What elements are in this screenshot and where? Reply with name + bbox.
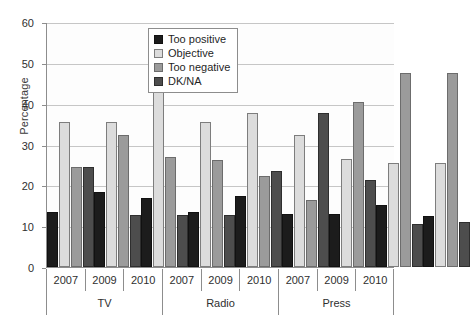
x-axis-year-label: 2010	[123, 269, 162, 291]
bar	[353, 102, 364, 267]
x-axis-year-label: 2010	[239, 269, 278, 291]
x-axis-year-label: 2009	[317, 269, 356, 291]
legend-item: DK/NA	[154, 74, 230, 88]
legend-swatch-icon	[154, 35, 163, 44]
bar	[423, 216, 434, 267]
bar-group	[235, 23, 282, 267]
y-axis-tick-label: 10	[0, 221, 34, 233]
y-axis-tick-mark	[42, 23, 46, 24]
legend-item: Too negative	[154, 60, 230, 74]
x-axis-year-label: 2009	[85, 269, 124, 291]
y-axis-tick-label: 30	[0, 140, 34, 152]
bar	[177, 215, 188, 267]
legend-label: Objective	[168, 47, 214, 59]
bar	[188, 212, 199, 267]
bar	[259, 176, 270, 267]
bar	[83, 167, 94, 267]
x-axis-year-label: 2010	[355, 269, 394, 291]
x-axis-year-label: 2007	[162, 269, 201, 291]
bar	[71, 167, 82, 267]
y-axis-tick-label: 60	[0, 17, 34, 29]
x-axis-media-label: Radio	[162, 291, 278, 315]
x-axis-media-label: TV	[46, 291, 162, 315]
bar	[106, 122, 117, 267]
y-axis-tick-label: 0	[0, 262, 34, 274]
x-axis-year-label: 2007	[46, 269, 85, 291]
legend: Too positiveObjectiveToo negativeDK/NA	[148, 28, 238, 93]
legend-swatch-icon	[154, 63, 163, 72]
y-axis-tick-label: 50	[0, 58, 34, 70]
bar	[153, 89, 164, 267]
x-axis-year-label: 2007	[278, 269, 317, 291]
bar	[247, 113, 258, 267]
bar	[165, 157, 176, 267]
bar	[306, 200, 317, 267]
legend-label: Too negative	[168, 61, 230, 73]
legend-label: DK/NA	[168, 75, 202, 87]
bar	[130, 215, 141, 267]
legend-item: Objective	[154, 46, 230, 60]
legend-swatch-icon	[154, 77, 163, 86]
bar-group	[47, 23, 94, 267]
legend-swatch-icon	[154, 49, 163, 58]
bar	[200, 122, 211, 267]
bar	[59, 122, 70, 267]
legend-item: Too positive	[154, 32, 230, 46]
bar-group	[282, 23, 329, 267]
bar	[318, 113, 329, 267]
bar	[447, 73, 458, 267]
bar	[388, 163, 399, 267]
bar	[376, 205, 387, 267]
y-axis-tick-mark	[42, 227, 46, 228]
y-axis-tick-label: 40	[0, 99, 34, 111]
bar	[47, 212, 58, 267]
bar	[341, 159, 352, 267]
bar	[271, 171, 282, 267]
bar	[294, 135, 305, 267]
bar	[212, 160, 223, 267]
bar	[94, 192, 105, 267]
x-axis-media-label: Press	[278, 291, 394, 315]
y-axis-tick-mark	[42, 146, 46, 147]
x-axis-media-labels: TVRadioPress	[46, 291, 394, 315]
x-axis-year-label: 2009	[201, 269, 240, 291]
bar-group	[376, 23, 423, 267]
bar	[435, 163, 446, 267]
y-axis-tick-mark	[42, 105, 46, 106]
bar	[141, 198, 152, 267]
bar-group	[94, 23, 141, 267]
bar	[400, 73, 411, 267]
bar	[459, 222, 470, 267]
legend-label: Too positive	[168, 33, 226, 45]
y-axis-tick-label: 20	[0, 180, 34, 192]
bar-group	[423, 23, 470, 267]
bar	[235, 196, 246, 267]
bar	[118, 135, 129, 267]
bar	[282, 214, 293, 267]
bar	[412, 224, 423, 267]
bar	[329, 214, 340, 267]
y-axis-tick-mark	[42, 186, 46, 187]
bar	[365, 180, 376, 267]
x-axis-year-labels: 200720092010200720092010200720092010	[46, 269, 394, 291]
y-axis-tick-mark	[42, 64, 46, 65]
bar-group	[329, 23, 376, 267]
bar	[224, 215, 235, 267]
